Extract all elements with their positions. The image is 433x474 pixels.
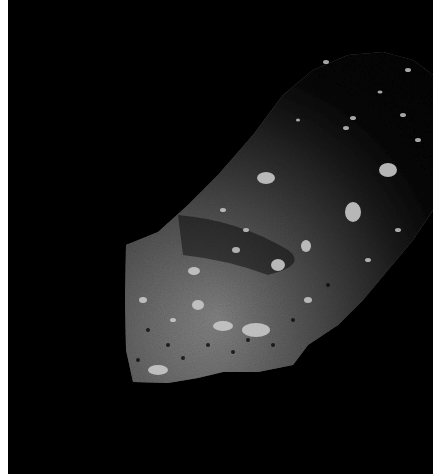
asteroid-image: [8, 0, 433, 474]
image-frame: [8, 0, 433, 474]
